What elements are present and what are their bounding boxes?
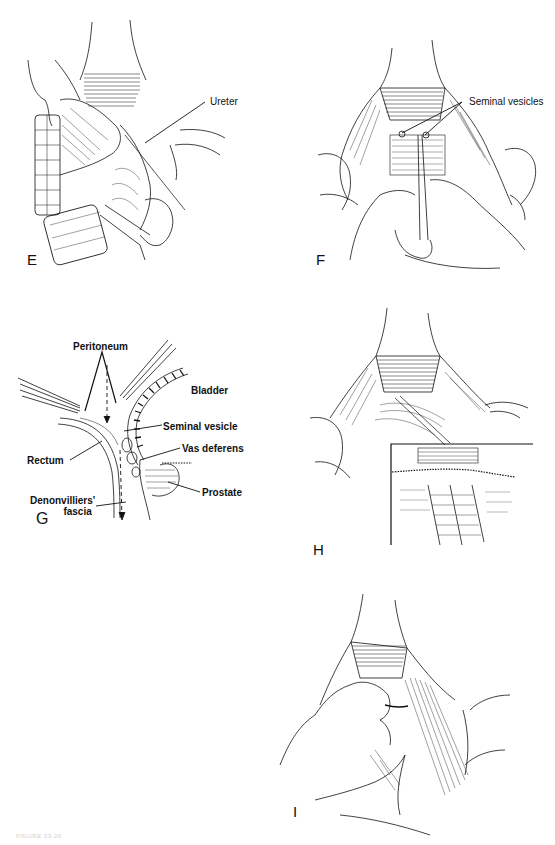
annotation-bladder: Bladder	[191, 385, 228, 396]
annotation-ureter: Ureter	[210, 97, 238, 107]
panel-h-illustration	[280, 280, 555, 560]
annotation-seminal-vesicles: Seminal vesicles	[469, 97, 543, 107]
panel-e: Ureter E	[0, 0, 280, 280]
annotation-vas-deferens: Vas deferens	[182, 443, 244, 454]
panel-g: Peritoneum Bladder Seminal vesicle Vas d…	[0, 280, 280, 530]
annotation-prostate: Prostate	[202, 487, 242, 498]
panel-e-illustration	[0, 0, 280, 280]
annotation-peritoneum: Peritoneum	[73, 341, 128, 352]
annotation-rectum: Rectum	[27, 455, 64, 466]
panel-label-f: F	[316, 252, 325, 267]
panel-f: Seminal vesicles F	[280, 0, 555, 280]
denonvilliers-line1: Denonvilliers'	[30, 495, 95, 506]
panel-i: I	[280, 560, 555, 845]
panel-i-illustration	[280, 560, 555, 845]
panel-h: H	[280, 280, 555, 560]
panel-label-g: G	[36, 511, 48, 527]
panel-label-e: E	[27, 252, 37, 267]
panel-label-i: I	[293, 804, 297, 819]
panel-label-h: H	[313, 542, 324, 557]
figure-caption: FIGURE 33-26	[16, 833, 62, 839]
annotation-seminal-vesicle: Seminal vesicle	[163, 421, 238, 432]
panel-f-illustration	[280, 0, 555, 280]
